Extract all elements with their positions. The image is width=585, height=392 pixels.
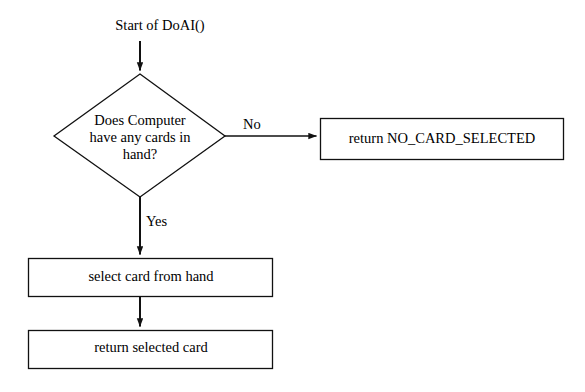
return-selected-card-box (29, 331, 273, 369)
flowchart-graphics (0, 0, 585, 392)
no-card-selected-box (321, 119, 564, 160)
flowchart-canvas: Start of DoAI() Does Computer have any c… (0, 0, 585, 392)
select-card-box (29, 259, 273, 297)
edge-label-no: No (243, 116, 261, 133)
decision-diamond (54, 74, 225, 197)
edge-label-yes: Yes (146, 213, 167, 230)
